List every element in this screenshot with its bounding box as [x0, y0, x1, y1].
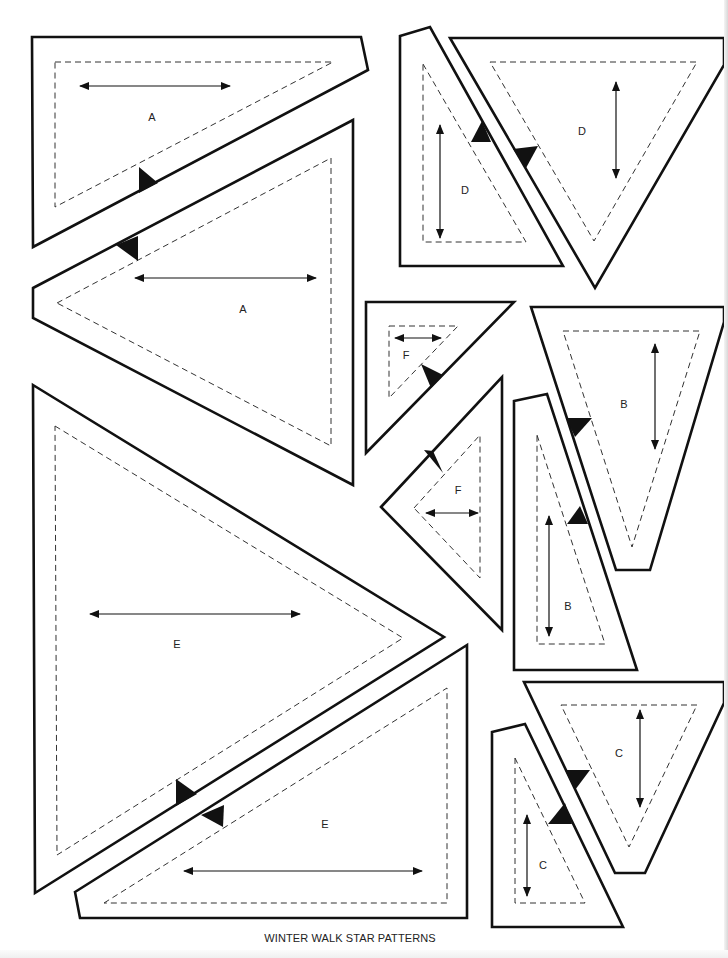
page-caption: WINTER WALK STAR PATTERNS [0, 932, 700, 944]
piece-label: B [620, 398, 627, 410]
scan-edge-bottom [0, 950, 728, 958]
pattern-sheet: AADDFFBBEECC WINTER WALK STAR PATTERNS [0, 0, 728, 958]
piece-label: E [321, 818, 328, 830]
piece-label: D [461, 184, 469, 196]
piece-label: D [578, 125, 586, 137]
piece-label: A [148, 111, 155, 123]
piece-label: F [455, 484, 462, 496]
piece-label: C [615, 747, 623, 759]
pattern-pieces [0, 0, 728, 958]
scan-edge-right [724, 0, 728, 958]
piece-label: E [173, 638, 180, 650]
piece-label: F [403, 349, 410, 361]
piece-label: A [239, 303, 246, 315]
piece-label: B [564, 600, 571, 612]
piece-label: C [539, 859, 547, 871]
